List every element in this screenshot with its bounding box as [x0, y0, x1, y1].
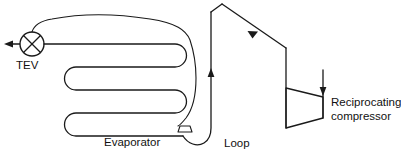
- suction-diagonal-line: [222, 4, 286, 128]
- suction-loop: [183, 12, 211, 145]
- compressor-discharge-arrow: [320, 70, 327, 118]
- compressor-label-line2: compressor: [331, 110, 391, 122]
- refrigeration-circuit-diagram: TEV Evaporator Loop Reciprocating compre…: [0, 0, 401, 151]
- evaporator-coil: [44, 44, 187, 136]
- reciprocating-compressor: [286, 88, 323, 128]
- sensing-bulb: [178, 126, 192, 132]
- evaporator-label: Evaporator: [104, 136, 160, 148]
- suction-header: [211, 4, 222, 12]
- tev-valve-icon: [20, 32, 44, 56]
- liquid-outlet-arrow: [4, 41, 20, 48]
- diagram-canvas: TEV Evaporator Loop Reciprocating compre…: [0, 0, 401, 151]
- tev-label: TEV: [16, 59, 39, 71]
- loop-label: Loop: [224, 137, 250, 149]
- external-equalizer-line: [32, 15, 196, 126]
- loop-riser-arrow: [208, 68, 215, 77]
- compressor-label-line1: Reciprocating: [331, 96, 401, 108]
